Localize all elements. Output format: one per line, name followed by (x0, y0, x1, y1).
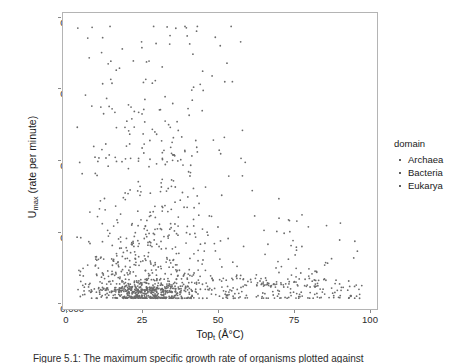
plot-panel (62, 12, 378, 310)
legend-item-bacteria[interactable]: Bacteria (394, 166, 443, 179)
legend-item-archaea[interactable]: Archaea (394, 153, 443, 166)
x-tick-mark (294, 310, 295, 313)
x-tick-mark (218, 310, 219, 313)
x-axis-title: Topt (Å°C) (62, 328, 378, 340)
y-tick-mark (58, 160, 61, 161)
legend-item-label: Bacteria (408, 167, 443, 178)
y-tick-mark (58, 232, 61, 233)
legend-marker-icon (394, 167, 405, 178)
x-tick-mark (66, 310, 67, 313)
legend: domain Archaea Bacteria Eukarya (394, 138, 443, 192)
x-tick-mark (142, 310, 143, 313)
x-tick-label: 75 (289, 314, 300, 325)
legend-item-label: Eukarya (408, 180, 443, 191)
figure-scatter-plot: 0.000 0.025 0.050 0.075 0.100 0 25 50 75… (0, 0, 463, 363)
x-tick-label: 25 (137, 314, 148, 325)
legend-marker-icon (394, 154, 405, 165)
legend-item-eukarya[interactable]: Eukarya (394, 179, 443, 192)
y-axis-title-sub: max (31, 196, 40, 210)
y-tick-mark (58, 17, 61, 18)
x-tick-label: 100 (362, 314, 378, 325)
x-axis-title-main: Top (196, 328, 213, 340)
scatter-points-layer (63, 13, 377, 309)
y-axis-title-main: U (26, 211, 38, 219)
figure-caption: Figure 5.1: The maximum specific growth … (33, 353, 433, 363)
y-tick-mark (58, 303, 61, 304)
legend-title: domain (394, 138, 443, 149)
x-tick-label: 0 (63, 314, 68, 325)
legend-marker-icon (394, 180, 405, 191)
x-tick-label: 50 (213, 314, 224, 325)
x-tick-mark (370, 310, 371, 313)
x-axis-title-unit: (Å°C) (215, 328, 244, 340)
y-axis-title-unit: (rate per minute) (26, 116, 38, 197)
y-tick-mark (58, 88, 61, 89)
legend-item-label: Archaea (408, 154, 443, 165)
y-axis-title: Umax (rate per minute) (26, 67, 38, 267)
x-axis-title-sub: t (213, 333, 215, 342)
